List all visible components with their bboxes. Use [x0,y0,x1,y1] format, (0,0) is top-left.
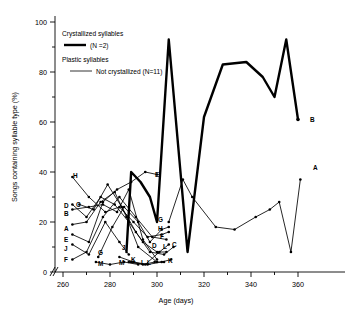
data-point [97,256,100,259]
data-point [85,221,88,224]
point-label: A [313,164,318,171]
data-point [106,183,109,186]
point-label: L [147,259,151,266]
legend-detail-plastic: Not crystallized (N=11) [96,68,162,76]
point-label: B [310,116,315,123]
legend-title-plastic: Plastic syllables [62,56,109,64]
data-point [142,241,145,244]
y-tick-label: 60 [39,118,47,127]
x-tick-label: 260 [57,280,69,289]
x-tick-label: 280 [104,280,116,289]
data-point [137,221,140,224]
data-point [88,253,91,256]
data-point [167,231,170,234]
point-label: D [152,242,157,249]
data-point [118,206,121,209]
point-label: M [98,260,103,267]
data-point [111,226,114,229]
line-chart: 260280300320340360020406080100 HDCBAEJFG… [0,0,348,317]
data-point [137,263,140,266]
data-point [214,226,217,229]
point-label: G [158,216,163,223]
data-point [118,196,121,199]
data-point [118,241,121,244]
point-label: F [160,233,164,240]
point-label: H [158,225,163,232]
point-label: B [64,210,69,217]
data-point [163,253,166,256]
point-label: C [172,241,177,248]
legend-title-crystallized: Crystallized syllables [62,30,124,38]
data-point [299,178,302,181]
data-point [88,241,91,244]
data-point [156,258,159,261]
data-point [71,243,74,246]
data-point [71,223,74,226]
data-point [120,206,123,209]
x-tick-label: 300 [151,280,163,289]
data-point [290,251,293,254]
series-line-e [72,172,157,242]
y-tick-label: 20 [39,218,47,227]
data-point [95,261,98,264]
data-point [71,208,74,211]
point-label: D [64,202,69,209]
x-tick-label: 360 [292,280,304,289]
data-point [296,118,300,122]
data-point [191,196,194,199]
y-axis-title: Songs containing syllable type (%) [10,92,19,202]
point-label: K [168,257,173,264]
data-point [182,178,185,181]
point-label-layer: HDCBAEJFGMEJMKILGHFDLCKBA [64,116,318,267]
y-tick-label: 80 [39,68,47,77]
point-label: E [155,171,160,178]
data-point [88,196,91,199]
point-label: J [64,245,68,252]
data-point [109,263,112,266]
data-point [104,211,107,214]
series-line-b [72,190,157,260]
data-point [130,181,133,184]
point-label: H [73,172,78,179]
data-point [123,206,126,209]
y-tick-label: 0 [43,268,47,277]
data-point [254,216,257,219]
data-point [85,216,88,219]
data-point [128,188,131,191]
data-point [128,253,131,256]
legend: Crystallized syllables (N =2) Plastic sy… [62,30,162,76]
data-point [71,203,74,206]
data-point [99,196,102,199]
data-point [149,251,152,254]
data-point [278,201,281,204]
x-tick-label: 340 [245,280,257,289]
data-point [116,188,119,191]
data-point [102,201,105,204]
data-point [158,251,161,254]
data-point [167,226,170,229]
point-label: K [131,256,136,263]
point-label: J [122,244,126,251]
data-point [269,208,272,211]
data-point [167,243,170,246]
data-point [137,246,140,249]
figure-root: 260280300320340360020406080100 HDCBAEJFG… [0,0,348,317]
point-label: L [163,243,167,250]
data-point [71,258,74,261]
data-point [165,238,168,241]
data-point [102,216,105,219]
point-label: M [119,259,124,266]
data-point [71,233,74,236]
data-point [160,261,163,264]
data-point [132,221,135,224]
x-axis-title: Age (days) [159,296,194,305]
data-point [116,211,119,214]
x-tick-label: 320 [198,280,210,289]
data-point [118,256,121,259]
y-tick-label: 40 [39,168,47,177]
data-point [104,221,107,224]
data-point [144,171,147,174]
data-point [165,251,168,254]
data-point [135,216,138,219]
point-label: F [64,256,68,263]
